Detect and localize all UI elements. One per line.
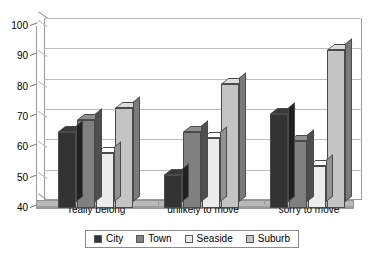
legend-swatch-icon	[136, 235, 144, 243]
bar-chart: 405060708090100 really belongunlikely to…	[0, 0, 379, 259]
bar-side-face	[239, 72, 246, 202]
bar-side-face	[114, 142, 121, 202]
legend-label: Suburb	[258, 234, 290, 244]
bar-side-face	[133, 96, 140, 202]
legend-swatch-icon	[94, 235, 102, 243]
legend-entry-seaside: Seaside	[185, 234, 233, 244]
legend-label: Town	[148, 234, 171, 244]
bar-side-face	[326, 154, 333, 202]
bar-side-face	[182, 163, 189, 202]
legend-entry-town: Town	[136, 234, 171, 244]
bar-side-face	[95, 108, 102, 202]
bar-face	[58, 132, 76, 208]
bar-side-face	[307, 129, 314, 202]
x-axis-tick-mark	[264, 200, 265, 205]
legend-entry-suburb: Suburb	[246, 234, 290, 244]
legend-swatch-icon	[185, 235, 193, 243]
legend-swatch-icon	[246, 235, 254, 243]
legend-label: Seaside	[197, 234, 233, 244]
x-axis-tick-mark	[158, 200, 159, 205]
bar-side-face	[220, 126, 227, 202]
bar-city-1	[164, 175, 182, 208]
bar-city-0	[58, 132, 76, 208]
bar-side-face	[201, 120, 208, 202]
bar-side-face	[288, 102, 295, 202]
legend-label: City	[106, 234, 123, 244]
bar-side-face	[345, 38, 352, 202]
bars-layer	[0, 0, 379, 259]
chart-legend: CityTownSeasideSuburb	[85, 230, 299, 248]
bar-face	[270, 114, 288, 208]
bar-city-2	[270, 114, 288, 208]
bar-side-face	[76, 120, 83, 202]
bar-face	[164, 175, 182, 208]
legend-entry-city: City	[94, 234, 123, 244]
